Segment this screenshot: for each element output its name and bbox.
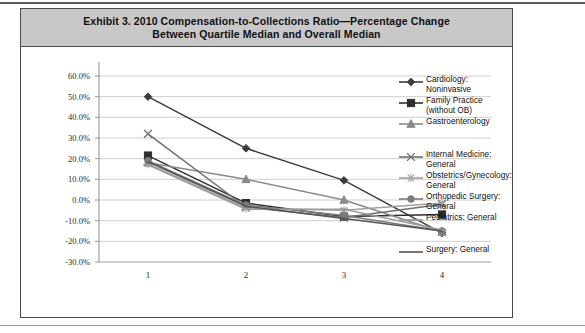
legend-row: Orthopedic Surgery: General <box>398 191 518 212</box>
x-axis-tick-label: 4 <box>440 270 445 280</box>
legend-marker-none-icon <box>398 244 424 256</box>
legend-item[interactable]: Orthopedic Surgery: General <box>398 191 518 212</box>
y-axis-tick-label: 0.0% <box>72 195 90 205</box>
legend-marker-line-icon <box>398 212 424 224</box>
y-axis-tick-label: 20.0% <box>68 154 90 164</box>
page-bottom-rule <box>0 325 585 326</box>
legend-marker-diamond-icon <box>398 74 424 86</box>
y-axis-tick-label: 10.0% <box>68 174 90 184</box>
legend-item[interactable]: Pediatrics: General <box>398 212 518 224</box>
legend-sample-graphic <box>399 173 423 182</box>
marker-circle <box>408 196 415 203</box>
y-axis-tick-label: -10.0% <box>65 216 90 226</box>
legend-label: Gastroenterology <box>426 116 490 126</box>
exhibit-title-bar: Exhibit 3. 2010 Compensation-to-Collecti… <box>21 9 512 47</box>
legend-sample-graphic <box>399 153 423 161</box>
marker-diamond <box>407 78 415 86</box>
legend-sample-graphic <box>399 196 423 203</box>
y-axis-tick-label: -30.0% <box>65 257 90 267</box>
legend-item[interactable]: Obstetrics/Gynecology: General <box>398 170 518 191</box>
legend-label: Orthopedic Surgery: General <box>426 191 500 212</box>
marker-diamond <box>242 145 250 153</box>
x-axis-tick-label: 2 <box>244 270 249 280</box>
legend-label: Family Practice (without OB) <box>426 95 483 116</box>
exhibit-title-line-2: Between Quartile Median and Overall Medi… <box>152 28 380 40</box>
legend-marker-square-icon <box>398 95 424 107</box>
y-axis-tick-label: 30.0% <box>68 133 90 143</box>
legend-item[interactable]: Cardiology: Noninvasive <box>398 74 518 95</box>
legend-marker-asterisk-icon <box>398 170 424 182</box>
legend-row: Obstetrics/Gynecology: General <box>398 170 518 191</box>
legend-marker-cross-icon <box>398 149 424 161</box>
y-axis-tick-label: -20.0% <box>65 236 90 246</box>
legend-row: Internal Medicine: General <box>398 149 518 170</box>
legend-label: Internal Medicine: General <box>426 149 492 170</box>
legend-sample-graphic <box>399 120 423 128</box>
legend-row: Pediatrics: General <box>398 212 518 224</box>
legend-label: Cardiology: Noninvasive <box>426 74 471 95</box>
legend-label: Obstetrics/Gynecology: General <box>426 170 512 191</box>
y-axis-tick-label: 60.0% <box>68 71 90 81</box>
legend-row: Surgery: General <box>398 244 518 256</box>
x-axis-tick-label: 1 <box>146 270 151 280</box>
y-axis-tick-label: 40.0% <box>68 112 90 122</box>
x-axis-tick-label: 3 <box>342 270 347 280</box>
exhibit-title: Exhibit 3. 2010 Compensation-to-Collecti… <box>63 15 470 41</box>
legend-sample-graphic <box>399 78 423 86</box>
legend-sample-graphic <box>399 100 423 107</box>
exhibit-title-line-1: Exhibit 3. 2010 Compensation-to-Collecti… <box>83 15 450 27</box>
page-top-rule <box>0 2 585 4</box>
legend-row: Family Practice (without OB) <box>398 95 518 116</box>
legend-item[interactable]: Internal Medicine: General <box>398 149 518 170</box>
legend-label: Surgery: General <box>426 244 489 254</box>
marker-square <box>407 100 414 107</box>
screenshot-root: Exhibit 3. 2010 Compensation-to-Collecti… <box>0 0 585 333</box>
legend-item[interactable]: Gastroenterology <box>398 116 518 128</box>
legend-marker-circle-icon <box>398 191 424 203</box>
marker-diamond <box>144 93 152 101</box>
y-axis-tick-label: 50.0% <box>68 92 90 102</box>
marker-diamond <box>340 177 348 185</box>
legend-label: Pediatrics: General <box>426 212 497 222</box>
legend-item[interactable]: Surgery: General <box>398 244 518 256</box>
legend-row: Cardiology: Noninvasive <box>398 74 518 95</box>
legend-marker-triangle-icon <box>398 116 424 128</box>
legend-row: Gastroenterology <box>398 116 518 128</box>
legend-item[interactable]: Family Practice (without OB) <box>398 95 518 116</box>
